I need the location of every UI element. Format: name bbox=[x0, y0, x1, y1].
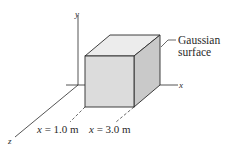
position-1-eq: = 1.0 m bbox=[42, 123, 79, 135]
cube-front-face bbox=[85, 56, 134, 107]
callout-line2: surface bbox=[178, 46, 211, 58]
dashed-line-x3 bbox=[116, 107, 134, 122]
y-axis-label: y bbox=[74, 9, 79, 19]
position-label-2: x = 3.0 m bbox=[88, 123, 131, 135]
callout-line1: Gaussian bbox=[178, 34, 220, 46]
z-axis-label: z bbox=[7, 136, 12, 146]
position-label-1: x = 1.0 m bbox=[36, 123, 79, 135]
gaussian-cube-diagram: y x z Gaussian surface x = 1.0 m x = 3.0… bbox=[0, 0, 235, 153]
callout-leader-line bbox=[161, 40, 176, 47]
x-axis-label: x bbox=[178, 80, 183, 90]
position-2-eq: = 3.0 m bbox=[94, 123, 131, 135]
dashed-line-x1 bbox=[70, 107, 85, 122]
